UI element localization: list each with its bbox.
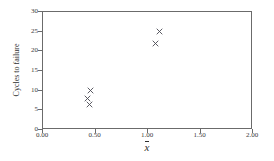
- x-axis-label: x: [42, 141, 252, 153]
- x-tick-label: 0.00: [22, 132, 62, 139]
- scatter-chart-figure: 051015202530 0.000.501.001.502.00 Cycles…: [0, 0, 274, 161]
- x-tick-label: 0.50: [75, 132, 115, 139]
- data-point-marker: [84, 95, 91, 102]
- data-point-marker: [152, 40, 159, 47]
- data-point-marker: [86, 101, 93, 108]
- data-point-marker: [87, 87, 94, 94]
- x-tick-label: 1.50: [180, 132, 220, 139]
- data-point-marker: [156, 28, 163, 35]
- x-axis-label-symbol: x: [145, 141, 150, 153]
- data-series-layer: [43, 12, 251, 128]
- x-tick-label: 2.00: [232, 132, 272, 139]
- x-tick-label: 1.00: [127, 132, 167, 139]
- plot-area: [42, 11, 252, 129]
- y-axis-label: Cycles to failure: [10, 11, 24, 129]
